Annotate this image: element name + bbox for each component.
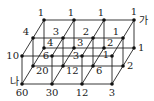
lattice-edge [52, 66, 63, 84]
start-point-label: 가 [139, 15, 148, 26]
node-count-label: 60 [16, 87, 29, 98]
node-count-label: 12 [76, 87, 89, 98]
node-count-label: 20 [36, 65, 49, 76]
lattice-node [20, 82, 24, 86]
node-count-label: 3 [73, 50, 79, 61]
lattice-node [31, 64, 35, 68]
lattice-node [61, 36, 65, 40]
node-count-label: 2 [127, 60, 133, 71]
node-count-label: 1 [138, 42, 144, 53]
lattice-edge [112, 66, 123, 84]
lattice-edge [82, 38, 93, 56]
node-count-label: 3 [77, 37, 83, 48]
node-count-label: 1 [98, 7, 104, 18]
node-count-label: 3 [109, 87, 115, 98]
lattice-edge [22, 66, 33, 84]
node-count-label: 12 [66, 65, 79, 76]
lattice-node [20, 54, 24, 58]
lattice-node [50, 54, 54, 58]
node-count-label: 1 [131, 6, 137, 17]
lattice-node [50, 82, 54, 86]
node-count-label: 6 [43, 50, 49, 61]
node-count-label: 2 [83, 26, 89, 37]
lattice-edge [22, 38, 33, 56]
lattice-node [132, 46, 136, 50]
lattice-node [121, 64, 125, 68]
lattice-edge [33, 20, 44, 38]
lattice-node [132, 18, 136, 22]
node-count-label: 10 [6, 50, 19, 61]
lattice-node [102, 18, 106, 22]
lattice-edge [123, 20, 134, 38]
node-count-label: 2 [107, 37, 113, 48]
lattice-node [91, 36, 95, 40]
lattice-node [110, 82, 114, 86]
lattice-node [80, 54, 84, 58]
lattice-node [31, 36, 35, 40]
node-count-label: 4 [23, 26, 29, 37]
node-count-label: 1 [113, 26, 119, 37]
end-point-label: 나 [10, 76, 19, 87]
lattice-node [110, 54, 114, 58]
node-count-label: 4 [47, 37, 53, 48]
node-count-label: 1 [103, 49, 109, 60]
lattice-diagram: 432120126260301231111432110631가나 [0, 0, 154, 101]
lattice-node [91, 64, 95, 68]
node-count-label: 6 [96, 65, 102, 76]
lattice-node [42, 18, 46, 22]
lattice-node [80, 82, 84, 86]
lattice-node [121, 36, 125, 40]
node-count-label: 3 [53, 26, 59, 37]
node-count-label: 1 [38, 7, 44, 18]
lattice-edge [82, 66, 93, 84]
lattice-edge [52, 38, 63, 56]
node-count-label: 1 [68, 7, 74, 18]
node-count-label: 30 [46, 87, 59, 98]
lattice-edge [63, 20, 74, 38]
lattice-node [72, 18, 76, 22]
lattice-node [61, 64, 65, 68]
lattice-edge [112, 38, 123, 56]
lattice-edge [93, 20, 104, 38]
